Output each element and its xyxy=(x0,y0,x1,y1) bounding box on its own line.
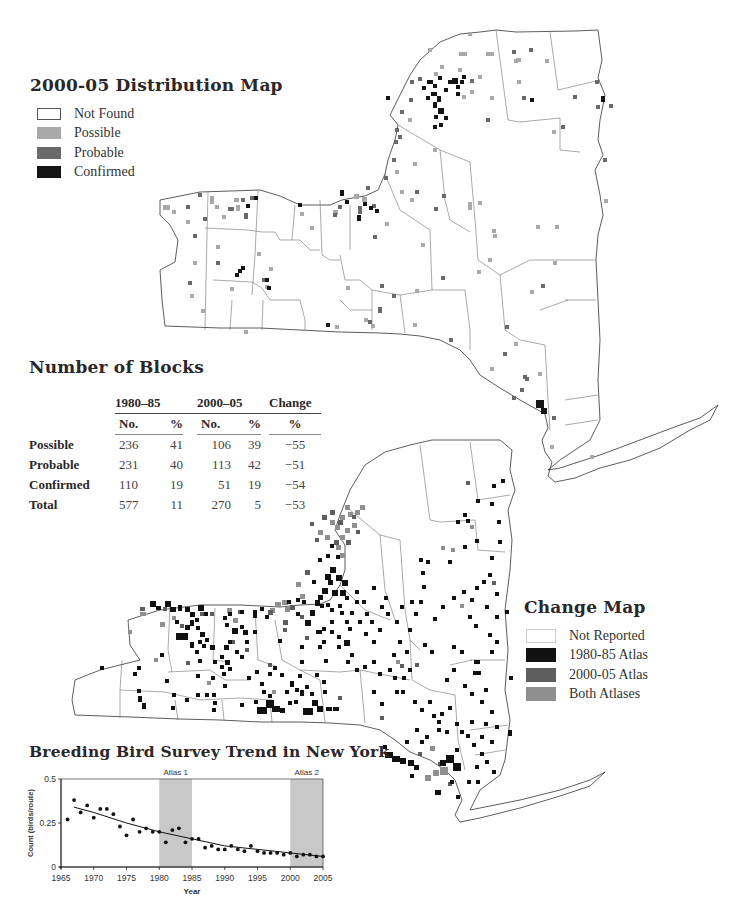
cell-change: −51 xyxy=(269,455,321,475)
cell-pct-2000: 39 xyxy=(239,435,261,456)
cell-no-2000: 270 xyxy=(197,495,239,515)
data-point xyxy=(295,855,299,859)
cell-pct-2000: 19 xyxy=(239,475,261,495)
cell-no-1980: 231 xyxy=(115,455,159,475)
data-point xyxy=(236,848,240,852)
legend-item-not-reported: Not Reported xyxy=(526,626,648,646)
swatch-both xyxy=(526,687,556,701)
table-row: Possible 236 41 106 39 −55 xyxy=(29,435,321,456)
atlas-period-shade xyxy=(290,779,323,867)
x-tick-label: 1975 xyxy=(117,873,136,883)
swatch-not-found xyxy=(37,108,61,120)
table-row: Probable 231 40 113 42 −51 xyxy=(29,455,321,475)
group-header-change: Change xyxy=(269,393,321,414)
group-header-row: 1980–85 2000–05 Change xyxy=(29,393,321,414)
swatch-2000-05 xyxy=(526,668,556,682)
data-point xyxy=(118,825,122,829)
atlas-label: Atlas 2 xyxy=(294,768,319,777)
data-point xyxy=(131,818,135,822)
x-tick-label: 2000 xyxy=(281,873,300,883)
cell-change: −54 xyxy=(269,475,321,495)
row-label: Confirmed xyxy=(29,475,115,495)
row-label: Possible xyxy=(29,435,115,456)
row-label: Probable xyxy=(29,455,115,475)
data-point xyxy=(229,844,233,848)
cell-pct-1980: 19 xyxy=(159,475,183,495)
data-point xyxy=(85,804,89,808)
table-row: Confirmed 110 19 51 19 −54 xyxy=(29,475,321,495)
legend-label: Not Reported xyxy=(569,628,645,644)
legend-label: Not Found xyxy=(74,106,134,122)
atlas-label: Atlas 1 xyxy=(163,768,188,777)
legend-label: Both Atlases xyxy=(569,686,640,702)
data-point xyxy=(262,851,266,855)
data-point xyxy=(98,807,102,811)
y-tick-label: 0.5 xyxy=(44,774,56,784)
distribution-map-legend: Not Found Possible Probable Confirmed xyxy=(37,104,135,182)
x-tick-label: 2005 xyxy=(314,873,333,883)
cell-pct-2000: 5 xyxy=(239,495,261,515)
data-point xyxy=(184,840,188,844)
y-tick-label: 0 xyxy=(51,862,56,872)
swatch-confirmed xyxy=(37,166,61,178)
data-point xyxy=(157,830,161,834)
x-axis-label: Year xyxy=(184,887,201,896)
data-point xyxy=(177,826,181,830)
atlas-period-shade xyxy=(159,779,192,867)
data-point xyxy=(301,853,305,857)
legend-label: 2000-05 Atlas xyxy=(569,667,648,683)
cell-pct-1980: 41 xyxy=(159,435,183,456)
data-point xyxy=(249,844,253,848)
data-point xyxy=(190,837,194,841)
data-point xyxy=(210,844,214,848)
chart-title: Breeding Bird Survey Trend in New York xyxy=(29,742,389,761)
x-tick-label: 1980 xyxy=(150,873,169,883)
data-point xyxy=(144,826,148,830)
x-tick-label: 1990 xyxy=(215,873,234,883)
cell-no-1980: 577 xyxy=(115,495,159,515)
x-tick-label: 1965 xyxy=(52,873,71,883)
trend-line xyxy=(74,807,323,856)
cell-no-1980: 236 xyxy=(115,435,159,456)
data-point xyxy=(197,837,201,841)
legend-label: Possible xyxy=(74,125,121,141)
cell-pct-1980: 11 xyxy=(159,495,183,515)
sub-header-no: No. xyxy=(115,414,159,435)
swatch-probable xyxy=(37,147,61,159)
change-map-title: Change Map xyxy=(524,597,646,617)
legend-item-both: Both Atlases xyxy=(526,685,648,705)
data-point xyxy=(223,848,227,852)
sub-header-no: No. xyxy=(197,414,239,435)
blocks-table: 1980–85 2000–05 Change No. % No. % % Pos… xyxy=(29,393,321,515)
legend-label: Confirmed xyxy=(74,164,135,180)
swatch-possible xyxy=(37,127,61,139)
blocks-table-title: Number of Blocks xyxy=(29,357,204,377)
data-point xyxy=(138,830,142,834)
data-point xyxy=(275,851,279,855)
sub-header-pct: % xyxy=(159,414,183,435)
cell-pct-1980: 40 xyxy=(159,455,183,475)
y-axis-label: Count (birds/route) xyxy=(26,789,35,857)
legend-label: 1980-85 Atlas xyxy=(569,647,648,663)
cell-no-2000: 51 xyxy=(197,475,239,495)
data-point xyxy=(125,833,129,837)
cell-change: −55 xyxy=(269,435,321,456)
sub-header-change-pct: % xyxy=(269,414,321,435)
data-point xyxy=(321,855,325,859)
y-tick-label: 0.25 xyxy=(39,818,56,828)
distribution-map-title: 2000-05 Distribution Map xyxy=(30,75,283,95)
x-tick-label: 1985 xyxy=(183,873,202,883)
swatch-not-reported xyxy=(526,629,556,643)
data-point xyxy=(315,855,319,859)
legend-label: Probable xyxy=(74,145,124,161)
row-label: Total xyxy=(29,495,115,515)
data-point xyxy=(282,853,286,857)
data-point xyxy=(256,849,260,853)
cell-pct-2000: 42 xyxy=(239,455,261,475)
swatch-1980-85 xyxy=(526,648,556,662)
data-point xyxy=(151,830,155,834)
data-point xyxy=(92,816,96,820)
cell-change: −53 xyxy=(269,495,321,515)
data-point xyxy=(203,846,207,850)
cell-no-2000: 106 xyxy=(197,435,239,456)
